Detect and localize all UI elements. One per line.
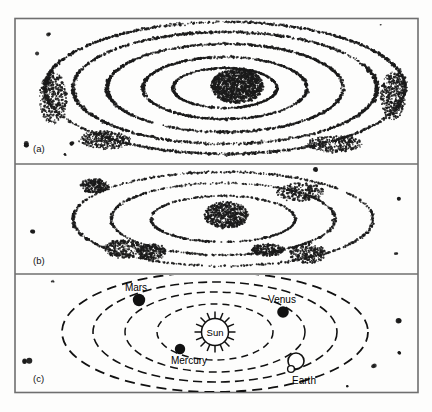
earth-label: Earth: [292, 375, 316, 386]
panel-a-label: (a): [33, 143, 45, 154]
sun-label: Sun: [207, 327, 224, 338]
panel-c-label: (c): [33, 373, 44, 384]
venus-label: Venus: [268, 294, 296, 305]
mars-marker: [133, 294, 145, 306]
mercury-marker: [175, 344, 185, 354]
mercury-label: Mercury: [171, 355, 207, 366]
moon-marker: [288, 366, 295, 373]
three-panel-solar-system-figure: (a) (b) Sun: [0, 0, 432, 412]
sun-body: Sun: [195, 312, 236, 353]
panel-b-label: (b): [33, 255, 45, 266]
mars-label: Mars: [125, 282, 147, 293]
figure-container: (a) (b) Sun: [0, 0, 432, 412]
venus-marker: [277, 306, 289, 318]
